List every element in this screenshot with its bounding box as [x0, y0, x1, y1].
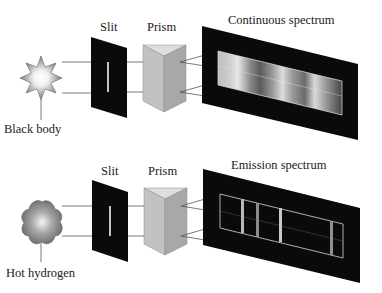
- continuous-spectrum-screen: [202, 26, 358, 140]
- emission-line: [279, 208, 282, 242]
- gas-cloud-icon: [22, 201, 63, 244]
- spectrum-diagram: Black body Slit Prism Cont: [0, 0, 382, 293]
- prism-label-bottom: Prism: [148, 164, 177, 178]
- emission-line: [241, 199, 244, 233]
- emission-line: [256, 203, 259, 237]
- emission-line: [330, 221, 333, 255]
- slit-panel-bottom: [92, 180, 128, 262]
- continuous-spectrum-label: Continuous spectrum: [228, 13, 335, 27]
- slit-label-bottom: Slit: [101, 164, 119, 178]
- slit-label-top: Slit: [100, 20, 118, 34]
- prism-top: [143, 45, 186, 112]
- prism-bottom: [144, 188, 187, 255]
- slit-panel-top: [91, 37, 127, 118]
- star-burst-icon: [20, 56, 62, 100]
- emission-spectrum-label: Emission spectrum: [231, 158, 327, 172]
- emission-spectrum-screen: [203, 169, 360, 283]
- hot-hydrogen-label: Hot hydrogen: [6, 266, 76, 280]
- bottom-row: Hot hydrogen Slit Prism: [6, 158, 360, 283]
- prism-label-top: Prism: [147, 20, 176, 34]
- black-body-label: Black body: [4, 122, 62, 136]
- top-row: Black body Slit Prism Cont: [4, 13, 358, 140]
